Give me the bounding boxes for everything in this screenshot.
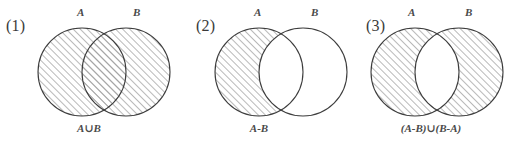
set-label-b: B bbox=[311, 6, 318, 18]
venn-panel-difference: (2) A B A-B bbox=[170, 0, 348, 151]
set-label-b: B bbox=[133, 6, 140, 18]
figure-number: (1) bbox=[6, 17, 25, 35]
set-label-a: A bbox=[254, 6, 261, 18]
region-symmetric-difference-shaded bbox=[361, 22, 513, 122]
venn-circles-symmetric-difference bbox=[361, 22, 513, 122]
panel-caption: (A-B)∪(B-A) bbox=[340, 122, 522, 135]
venn-panel-union: (1) A B A∪B bbox=[0, 0, 178, 151]
set-label-a: A bbox=[77, 6, 84, 18]
venn-panel-symmetric-difference: (3) A B bbox=[340, 0, 522, 151]
venn-circles-union bbox=[30, 22, 178, 122]
region-a-minus-b-shaded bbox=[207, 22, 355, 122]
set-label-a: A bbox=[408, 6, 415, 18]
panel-caption: A∪B bbox=[0, 122, 178, 135]
venn-circles-difference bbox=[207, 22, 355, 122]
panel-caption: A-B bbox=[170, 122, 348, 134]
venn-diagram-row: (1) A B A∪B (2) A B bbox=[0, 0, 522, 151]
set-label-b: B bbox=[465, 6, 472, 18]
